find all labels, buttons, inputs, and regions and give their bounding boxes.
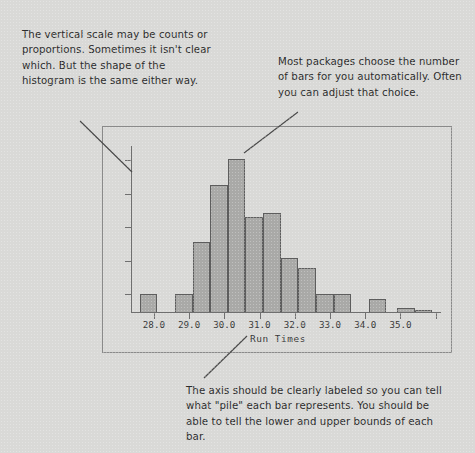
annotation-leader-lines: [0, 0, 475, 453]
leader-line-axis-label: [204, 336, 247, 378]
leader-line-vertical-scale: [80, 121, 132, 172]
leader-line-bar-count: [244, 112, 298, 153]
